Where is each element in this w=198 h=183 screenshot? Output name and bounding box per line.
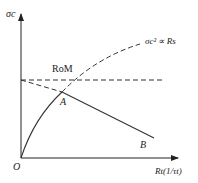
origin-label: O <box>13 161 20 172</box>
rom-decreasing-line <box>21 80 62 92</box>
point-a-label: A <box>60 96 66 107</box>
solid-curve-oa <box>21 92 62 158</box>
solid-line-ab <box>62 92 154 138</box>
sigma-squared-curve <box>62 44 140 92</box>
diagram-canvas <box>0 0 198 183</box>
rom-label: RoM <box>52 63 73 74</box>
y-axis-label: σc <box>6 8 15 19</box>
x-axis-label: Rt(1/τt) <box>155 166 182 176</box>
curve-label: σc² ∝ Rs <box>145 36 176 46</box>
point-b-label: B <box>140 139 146 150</box>
